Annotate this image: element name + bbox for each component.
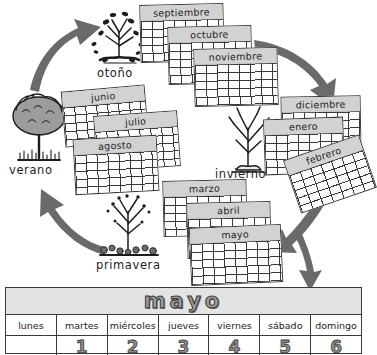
day-cell[interactable]: 4: [209, 336, 260, 355]
month-grid: [190, 240, 282, 285]
day-cell[interactable]: [6, 336, 57, 355]
season-label-primavera: primavera: [96, 258, 161, 272]
month-card-agosto[interactable]: agosto: [73, 135, 160, 195]
season-label-verano: verano: [9, 163, 53, 177]
day-cell[interactable]: 3: [159, 336, 210, 355]
month-grid: [195, 63, 278, 106]
day-cell[interactable]: 1: [57, 336, 108, 355]
weekday-viernes: viernes: [209, 315, 260, 335]
season-label-otono: otoño: [97, 66, 133, 80]
falling-leaves-tree-icon: [91, 11, 144, 63]
budding-tree-icon: [100, 194, 158, 255]
month-card-noviembre[interactable]: noviembre: [193, 47, 278, 107]
featured-calendar-mayo[interactable]: mayo lunes martes miércoles jueves viern…: [5, 287, 362, 354]
featured-calendar-month: mayo: [144, 289, 224, 313]
weekday-lunes: lunes: [6, 315, 57, 335]
month-grid: [74, 151, 158, 194]
weekday-miercoles: miércoles: [108, 315, 159, 335]
weekday-martes: martes: [57, 315, 108, 335]
day-cell[interactable]: 6: [311, 336, 361, 355]
day-cell[interactable]: 2: [108, 336, 159, 355]
day-cell[interactable]: 5: [260, 336, 311, 355]
weekday-header-row: lunes martes miércoles jueves viernes sá…: [6, 315, 361, 336]
weekday-sabado: sábado: [260, 315, 311, 335]
weekday-jueves: jueves: [159, 315, 210, 335]
month-card-mayo[interactable]: mayo: [189, 224, 283, 286]
day-number-row: 1 2 3 4 5 6: [6, 336, 361, 355]
weekday-domingo: domingo: [311, 315, 361, 335]
featured-calendar-title: mayo: [6, 288, 361, 315]
leafy-tree-icon: [13, 94, 65, 160]
